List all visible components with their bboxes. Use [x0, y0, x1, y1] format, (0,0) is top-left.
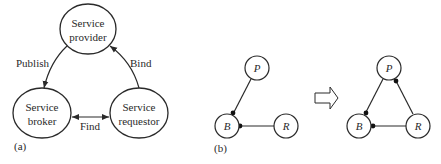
- panel-b-after: P B R: [347, 56, 430, 138]
- node-service-requestor: Service requestor: [110, 88, 168, 138]
- node-p-after-label: P: [385, 62, 393, 74]
- provider-line2: provider: [69, 31, 107, 43]
- panel-a: Service provider Service broker Service …: [13, 4, 168, 153]
- bind-label: Bind: [130, 57, 152, 69]
- node-b-label: B: [224, 120, 231, 132]
- node-b-after-label: B: [356, 120, 363, 132]
- requestor-line1: Service: [123, 101, 156, 113]
- publish-label: Publish: [16, 57, 50, 69]
- panel-b-before: P B R (b): [214, 56, 298, 155]
- panel-b-label: (b): [214, 142, 227, 155]
- node-p-label: P: [253, 62, 261, 74]
- broker-line1: Service: [26, 101, 59, 113]
- node-service-provider: Service provider: [60, 4, 116, 54]
- panel-a-label: (a): [14, 140, 27, 153]
- requestor-line2: requestor: [119, 115, 160, 127]
- broker-line2: broker: [28, 115, 57, 127]
- node-r-label: R: [282, 120, 290, 132]
- node-r-after-label: R: [414, 120, 422, 132]
- find-label: Find: [80, 120, 101, 132]
- provider-line1: Service: [72, 17, 105, 29]
- soa-diagram: Service provider Service broker Service …: [0, 0, 441, 164]
- node-service-broker: Service broker: [13, 88, 71, 138]
- hollow-right-arrow-icon: [315, 87, 338, 109]
